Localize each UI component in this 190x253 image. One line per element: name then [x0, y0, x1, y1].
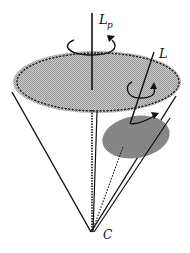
cone-left-edge: [12, 92, 91, 232]
inner-cone-left-edge: [93, 112, 97, 232]
precession-diagram: L p L C: [0, 0, 190, 253]
label-precession-axis-subscript: p: [107, 20, 113, 30]
precession-disk: [13, 51, 181, 113]
label-angular-momentum: L: [158, 46, 168, 61]
label-apex: C: [103, 228, 112, 242]
